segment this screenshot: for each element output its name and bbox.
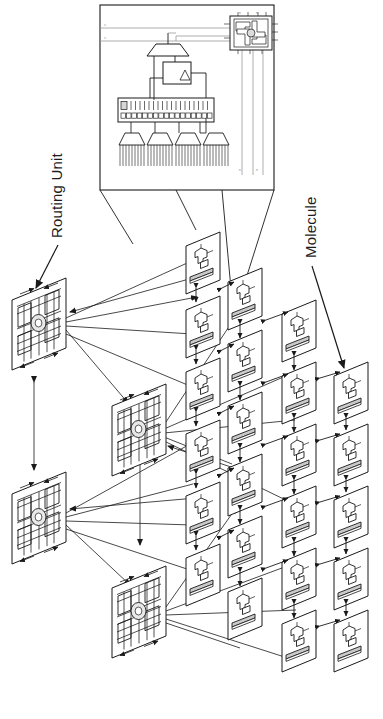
svg-text:n: n — [256, 168, 258, 172]
routing-unit-label: Routing Unit — [48, 152, 65, 238]
architecture-diagram: n n n n n n n n — [0, 0, 383, 719]
molecule-tile-r1c1 — [228, 330, 262, 392]
molecule-tile-r0c3 — [334, 362, 368, 424]
molecule-tile-r2c1 — [228, 392, 262, 454]
embedded-routing-unit — [224, 12, 278, 54]
figure-root: n n n n n n n n — [0, 0, 383, 719]
molecule-tile-r4c1 — [228, 516, 262, 578]
svg-text:n: n — [239, 11, 241, 15]
molecule-tile-r5c0 — [186, 544, 220, 606]
routing-unit-tile-3 — [112, 566, 166, 658]
routing-unit-callout: Routing Unit — [36, 152, 65, 288]
routing-unit-tile-1 — [12, 472, 66, 564]
molecule-tile-r3c1 — [228, 454, 262, 516]
molecule-tile-r4c2 — [282, 548, 316, 610]
molecule-tile-r5c2 — [282, 610, 316, 672]
svg-text:n: n — [103, 24, 107, 26]
molecule-tile-r0c2 — [282, 300, 316, 362]
configuration-register — [118, 98, 214, 122]
molecule-tile-r3c3 — [334, 548, 368, 610]
molecule-tile-r1c2 — [282, 362, 316, 424]
molecule-tile-r2c2 — [282, 424, 316, 486]
svg-text:n: n — [239, 168, 241, 172]
molecule-tile-r5c1 — [228, 578, 262, 640]
molecule-tile-r4c3 — [334, 610, 368, 672]
molecule-tile-r1c3 — [334, 424, 368, 486]
molecule-tile-r2c0 — [186, 358, 220, 420]
molecule-tile-r3c2 — [282, 486, 316, 548]
molecule-tile-r0c1 — [228, 268, 262, 330]
molecule-detail-inset: n n n n n n n n — [100, 5, 278, 190]
svg-text:n: n — [103, 37, 107, 39]
routing-unit-tile-0 — [12, 278, 66, 370]
molecule-tile-r1c0 — [186, 296, 220, 358]
molecule-label: Molecule — [302, 196, 319, 258]
molecule-tile-r0c0 — [186, 232, 220, 294]
molecule-tile-r4c0 — [186, 482, 220, 544]
molecule-tile-r2c3 — [334, 486, 368, 548]
molecule-tile-r3c0 — [186, 420, 220, 482]
